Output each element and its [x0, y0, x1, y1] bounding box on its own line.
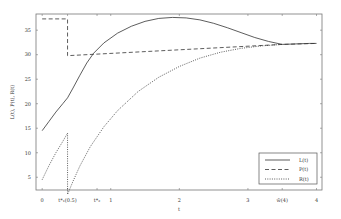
x-tick-label: 4	[315, 197, 318, 203]
y-tick-label: 5	[28, 174, 31, 180]
y-axis-title: L(t), P(t), R(t)	[9, 85, 15, 120]
y-tick-label: 15	[25, 125, 31, 131]
series-pt-line	[42, 19, 316, 56]
legend-label: P(t)	[299, 166, 308, 172]
series-rt-line	[42, 44, 282, 194]
legend-label: R(t)	[299, 176, 309, 182]
x-tick-label: 0	[41, 197, 44, 203]
y-tick-label: 10	[25, 150, 31, 156]
y-tick-label: 35	[25, 27, 31, 33]
y-tick-label: 20	[25, 101, 31, 107]
x-tick-label: t*₁(0.5)	[58, 197, 76, 203]
x-tick-label: t*₂	[94, 197, 101, 203]
legend-label: L(t)	[299, 157, 308, 163]
x-axis-title: t	[178, 206, 180, 212]
y-tick-label: 30	[25, 51, 31, 57]
series-lt-line	[42, 17, 316, 130]
chart: 5101520253035 0t*₁(0.5)t*₂123w̃(4)4 t L(…	[0, 0, 341, 219]
x-tick-label: 3	[246, 197, 249, 203]
x-tick-label: 1	[109, 197, 112, 203]
legend: L(t)P(t)R(t)	[259, 153, 317, 184]
x-tick-label: w̃(4)	[277, 197, 288, 203]
y-tick-label: 25	[25, 76, 31, 82]
x-tick-label: 2	[178, 197, 181, 203]
